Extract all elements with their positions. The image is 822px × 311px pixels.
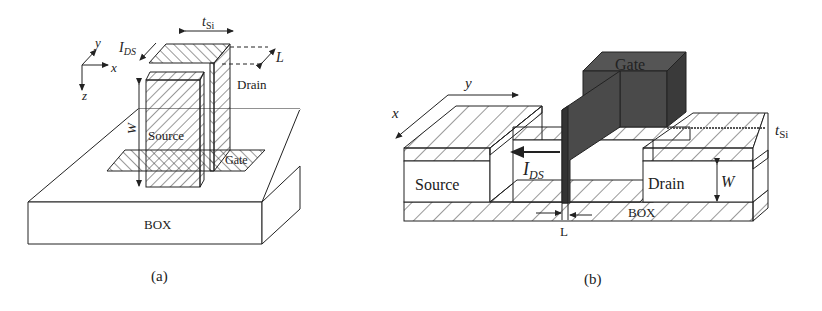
box-label-a: BOX bbox=[144, 217, 172, 232]
axis-y-label-b: y bbox=[463, 75, 472, 91]
l-label-b: L bbox=[560, 224, 568, 239]
caption-b: (b) bbox=[584, 271, 602, 288]
figure-b: y x Gate tSi IDS Source Drain W BOX L (b… bbox=[391, 52, 788, 288]
w-label-b: W bbox=[721, 173, 736, 190]
box-label-b: BOX bbox=[628, 205, 656, 220]
axis-y-label-a: y bbox=[93, 35, 101, 50]
finfet-figure: x y z IDS tSi L Drain Source Gate W BOX … bbox=[0, 0, 822, 311]
axis-x-label-b: x bbox=[391, 105, 399, 121]
gate-label-a: Gate bbox=[225, 153, 248, 167]
drain-label-b: Drain bbox=[648, 175, 684, 192]
gate-label-b: Gate bbox=[615, 56, 645, 73]
tsi-label-b: tSi bbox=[775, 122, 788, 140]
w-label-a: W bbox=[124, 122, 139, 134]
caption-a: (a) bbox=[151, 268, 168, 285]
figure-a: x y z IDS tSi L Drain Source Gate W BOX … bbox=[28, 14, 300, 285]
source-label-b: Source bbox=[415, 176, 459, 193]
source-label-a: Source bbox=[148, 128, 184, 143]
l-label-a: L bbox=[275, 50, 284, 65]
tsi-label-a: tSi bbox=[202, 14, 214, 31]
l-arrow-a bbox=[262, 49, 275, 63]
axis-z-label-a: z bbox=[81, 88, 87, 103]
axes-a bbox=[82, 50, 108, 90]
drain-label-a: Drain bbox=[237, 77, 267, 92]
ids-label-a: IDS bbox=[118, 40, 136, 57]
axis-x-label-a: x bbox=[110, 60, 117, 75]
